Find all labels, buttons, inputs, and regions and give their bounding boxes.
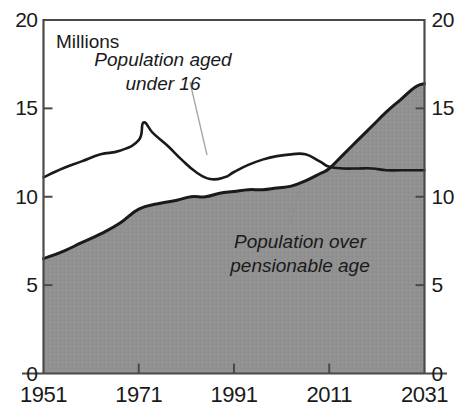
axis-tick-label: 5 — [432, 273, 443, 296]
under-16-annotation-line1: Population aged — [94, 49, 233, 70]
axis-tick-label: 2031 — [401, 382, 448, 407]
population-projection-chart: 05101520 05101520 19511971199120112031 M… — [0, 0, 474, 410]
axis-tick-label: 1991 — [211, 382, 258, 407]
pensionable-age-annotation-line2: pensionable age — [229, 255, 369, 276]
axis-tick-label: 20 — [15, 8, 37, 31]
axis-tick-label: 1951 — [20, 382, 67, 407]
axis-tick-label: 10 — [432, 185, 454, 208]
x-axis-labels: 19511971199120112031 — [20, 382, 448, 407]
axis-tick-label: 10 — [15, 185, 37, 208]
axis-tick-label: 2011 — [307, 382, 353, 407]
under-16-annotation-line2: under 16 — [125, 73, 200, 94]
axis-tick-label: 15 — [432, 96, 454, 119]
right-axis-labels: 05101520 — [432, 8, 454, 385]
axis-tick-label: 20 — [432, 8, 454, 31]
axis-tick-label: 5 — [26, 273, 37, 296]
left-axis-labels: 05101520 — [15, 8, 37, 385]
axis-tick-label: 15 — [15, 96, 37, 119]
chart-svg: 05101520 05101520 19511971199120112031 M… — [0, 0, 474, 410]
axis-tick-label: 1971 — [115, 382, 162, 407]
pensionable-age-annotation-line1: Population over — [234, 231, 367, 252]
